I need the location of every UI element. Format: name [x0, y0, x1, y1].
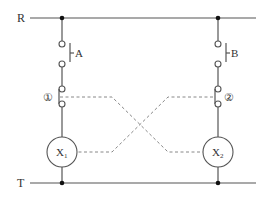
switch-a-label: A [75, 47, 83, 59]
contact-1-label: ① [43, 91, 53, 103]
switch-a-contact-top [59, 41, 65, 47]
circuit-diagram: R T A ① X1 B ② X2 [0, 0, 275, 197]
contact-1-bottom [59, 101, 65, 107]
node-r-left [60, 16, 65, 21]
contact-2-label: ② [224, 91, 234, 103]
switch-b-label: B [231, 47, 238, 59]
contact-1-top [59, 86, 65, 92]
branch-left: A ① X1 [43, 18, 83, 183]
rail-r-label: R [17, 11, 25, 25]
rail-t-label: T [17, 176, 25, 190]
node-t-left [60, 181, 65, 186]
contact-2-top [215, 86, 221, 92]
switch-a-contact-bottom [59, 61, 65, 67]
contact-2-bottom [215, 101, 221, 107]
switch-b-contact-top [215, 41, 221, 47]
node-r-right [216, 16, 221, 21]
switch-b-contact-bottom [215, 61, 221, 67]
branch-right: B ② X2 [203, 18, 238, 183]
node-t-right [216, 181, 221, 186]
link-contact1-to-coil2 [60, 97, 203, 152]
link-contact2-to-coil1 [77, 97, 213, 152]
